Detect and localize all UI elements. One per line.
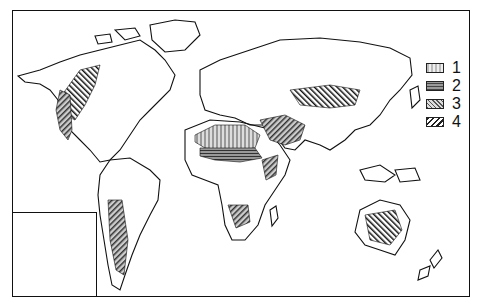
zone-4-central-asia: [290, 85, 360, 108]
legend-swatch-icon: [426, 63, 444, 73]
zone-1-sahara: [195, 125, 260, 150]
legend-swatch-icon: [426, 99, 444, 109]
legend-label: 3: [452, 96, 461, 111]
legend-label: 1: [452, 60, 461, 75]
legend-item-2: 2: [426, 78, 466, 93]
zone-2-sahel: [200, 148, 262, 162]
south-america: [98, 158, 160, 290]
zone-3-south-america: [108, 200, 128, 275]
europe-inset: [12, 212, 97, 297]
zone-3-middle-east: [260, 115, 305, 145]
zone-4-australia: [365, 210, 402, 245]
greenland: [150, 20, 200, 52]
legend-item-3: 3: [426, 96, 466, 111]
legend-label: 2: [452, 78, 461, 93]
legend: 1 2 3 4: [426, 60, 466, 132]
zone-3-south-africa: [228, 205, 250, 228]
legend-label: 4: [452, 114, 461, 129]
zone-3-horn-africa: [262, 155, 278, 180]
north-america: [18, 40, 175, 162]
legend-item-1: 1: [426, 60, 466, 75]
legend-swatch-icon: [426, 81, 444, 91]
zone-3-north-america: [56, 90, 72, 140]
legend-swatch-icon: [426, 117, 444, 127]
legend-item-4: 4: [426, 114, 466, 129]
